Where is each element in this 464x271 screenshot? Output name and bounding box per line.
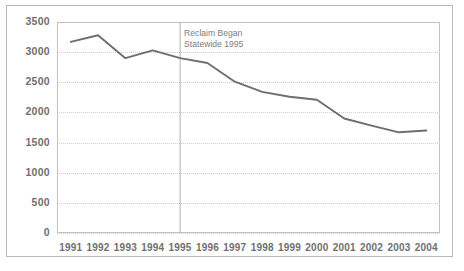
reclaim-annotation-line1: Reclaim Began xyxy=(184,28,243,39)
data-series-line xyxy=(71,35,427,132)
reclaim-annotation-line2: Statewide 1995 xyxy=(184,39,243,50)
chart-figure: 0500100015002000250030003500 19911992199… xyxy=(0,0,464,271)
reclaim-annotation: Reclaim Began Statewide 1995 xyxy=(184,28,243,49)
